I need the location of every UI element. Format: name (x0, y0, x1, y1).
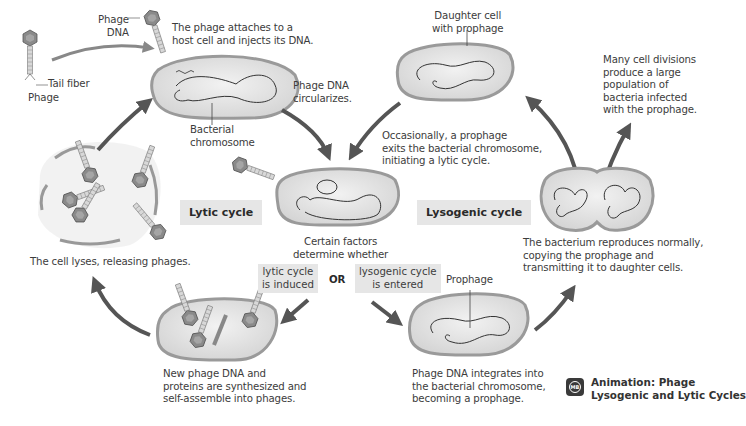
label-daughter-cell: Daughter cell with prophage (432, 10, 503, 35)
label-or: OR (329, 274, 345, 287)
lytic-induced-box: lytic cycle is induced (258, 264, 318, 293)
label-certain-factors: Certain factors determine whether (293, 236, 388, 261)
label-reproduces: The bacterium reproduces normally, copyi… (523, 237, 703, 275)
assembly-cell (157, 282, 276, 360)
arrow-to-prophage (372, 302, 398, 322)
arrow-attach (52, 46, 150, 60)
label-phage: Phage (28, 92, 59, 105)
animation-link[interactable]: Animation: Phage Lysogenic and Lytic Cyc… (591, 376, 746, 402)
label-bacterial-chromosome: Bacterial chromosome (190, 124, 255, 149)
arrow-reinfect (98, 102, 148, 150)
arrow-to-lysis (95, 282, 150, 335)
lytic-cycle-label: Lytic cycle (180, 200, 262, 225)
arrow-to-assembly (285, 300, 308, 320)
dividing-cell (541, 168, 653, 230)
label-attach: The phage attaches to a host cell and in… (172, 22, 313, 47)
label-circularizes: Phage DNA circularizes. (293, 80, 352, 105)
label-many-divisions: Many cell divisions produce a large popu… (603, 54, 697, 117)
central-cell (277, 169, 399, 225)
label-prophage: Prophage (446, 274, 493, 287)
arrow-circularize (282, 110, 328, 155)
label-integrates: Phage DNA integrates into the bacterial … (412, 368, 546, 406)
label-tail-fiber: Tail fiber (48, 78, 90, 91)
label-new-phage: New phage DNA and proteins are synthesiz… (163, 368, 306, 406)
label-cell-lyses: The cell lyses, releasing phages. (30, 256, 191, 269)
mb-badge: MB (569, 381, 581, 393)
daughter-cell (397, 30, 513, 100)
lysogenic-cycle-label: Lysogenic cycle (417, 200, 531, 225)
prophage-cell (409, 290, 528, 355)
mb-play-icon[interactable]: MB (566, 378, 584, 396)
arrow-to-reproduce (535, 290, 572, 330)
lysogenic-entered-box: lysogenic cycle is entered (355, 264, 441, 293)
lysed-cell (38, 139, 169, 248)
label-phage-dna: Phage DNA (98, 14, 129, 39)
label-occasionally: Occasionally, a prophage exits the bacte… (382, 130, 542, 168)
